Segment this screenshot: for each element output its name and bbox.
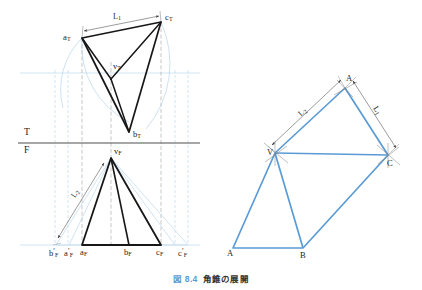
- label-c-front: cF: [156, 248, 163, 257]
- figure-caption: 図 8.4角錐の展開: [0, 272, 422, 284]
- reference-label-F: F: [24, 146, 29, 156]
- technical-drawing-canvas: [0, 0, 422, 290]
- label-a-front: aF: [80, 248, 87, 257]
- label-b-prime-front: b′F: [49, 248, 59, 258]
- label-A-bottom-development: A: [227, 249, 233, 258]
- label-a-top: aT: [63, 33, 71, 42]
- label-C-development: C: [387, 159, 393, 168]
- front-view-construction: [56, 158, 188, 245]
- rotation-arcs: [61, 22, 170, 129]
- label-a-prime-front: a′F: [64, 248, 73, 258]
- top-view-outline: [82, 22, 161, 132]
- label-v-front: vF: [114, 147, 122, 156]
- label-b-top: bT: [133, 130, 141, 139]
- label-b-front: bF: [124, 248, 132, 257]
- label-B-development: B: [300, 251, 306, 260]
- reference-label-T: T: [24, 128, 30, 138]
- development-dimension-L1: [345, 77, 399, 155]
- figure-number: 図 8.4: [173, 274, 198, 284]
- dimension-label-L1-top: L1: [113, 13, 121, 21]
- label-V-development: V: [267, 148, 273, 157]
- label-A-top-development: A: [346, 74, 352, 83]
- figure-caption-text: 角錐の展開: [203, 274, 250, 284]
- label-c-prime-front: c′F: [178, 248, 187, 258]
- projection-construction-lines: [20, 70, 200, 245]
- label-v-top: vT: [113, 62, 121, 71]
- label-c-top: cT: [165, 13, 173, 22]
- figure-container: aT cT vT bT L1 T F vF L2 b′F a′F aF bF c…: [0, 0, 422, 290]
- development-outline: [233, 88, 388, 248]
